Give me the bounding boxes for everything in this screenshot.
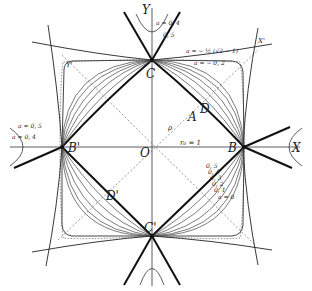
label-y-prime: Y' — [66, 61, 73, 69]
label-top-hyperbola-a1: a = 0, 4 — [156, 19, 180, 26]
lemniscate-family-diagram: Y X X' Y' O C C' B B' D D' A ρ r₀ = 1 a … — [0, 0, 312, 291]
label-origin: O — [140, 146, 150, 160]
label-c-prime: C' — [144, 221, 156, 235]
label-top-curve-a1: a = − ½ (√2 − 1) — [186, 47, 239, 54]
left-tangent — [46, 25, 62, 266]
label-r0: r₀ = 1 — [180, 139, 201, 147]
label-left-hyperbola-a1: a = 0, 5 — [18, 122, 42, 129]
label-d-prime: D' — [105, 189, 119, 203]
label-top-hyperbola-a2: 0, 5 — [163, 31, 175, 38]
svg-text:a = 0: a = 0 — [218, 193, 234, 200]
svg-text:0, 1: 0, 1 — [214, 186, 225, 193]
label-rho: ρ — [167, 124, 173, 132]
label-y: Y — [142, 3, 151, 17]
label-top-curve-a2: a = − 0, 2 — [194, 59, 225, 66]
label-x-prime: X' — [257, 37, 265, 45]
label-x: X — [291, 141, 301, 155]
bold-asymptote-lines — [14, 12, 292, 285]
label-d: D — [199, 102, 210, 116]
label-a: A — [187, 110, 197, 124]
label-b-prime: B' — [67, 141, 80, 155]
label-c: C — [146, 67, 155, 81]
label-b: B — [227, 141, 237, 155]
label-left-hyperbola-a2: a = 0, 4 — [12, 133, 36, 140]
diagonal-2 — [62, 55, 255, 245]
